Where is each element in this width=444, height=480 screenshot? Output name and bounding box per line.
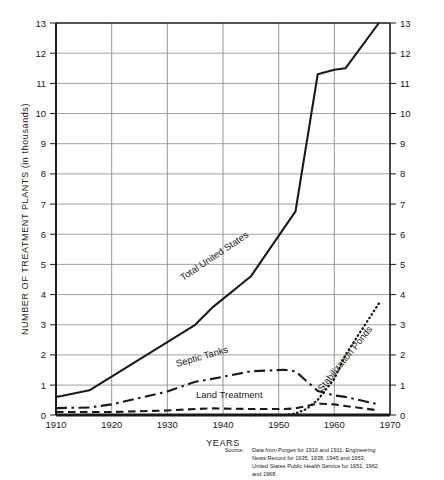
y-tick-right-3: 3 — [400, 319, 405, 330]
y-tick-left-8: 8 — [41, 168, 46, 179]
y-tick-left-10: 10 — [35, 108, 46, 119]
y-tick-left-3: 3 — [41, 319, 46, 330]
y-tick-right-1: 1 — [400, 380, 405, 391]
x-tick-1930: 1930 — [157, 419, 178, 430]
y-tick-left-4: 4 — [41, 289, 46, 300]
y-tick-left-7: 7 — [41, 199, 46, 210]
y-axis-right-tick-labels: 13 12 11 10 9 8 7 6 5 4 3 2 1 0 — [400, 18, 411, 421]
right-tick-marks — [390, 23, 396, 415]
y-tick-right-0: 0 — [400, 410, 405, 421]
y-tick-left-1: 1 — [41, 380, 46, 391]
x-tick-1920: 1920 — [101, 419, 122, 430]
y-tick-right-11: 11 — [400, 78, 410, 89]
x-tick-1910: 1910 — [45, 419, 66, 430]
source-note-line-4: and 1968. — [252, 471, 277, 477]
line-chart: 13 12 11 10 9 8 7 6 5 4 3 2 1 0 13 12 11… — [0, 0, 444, 480]
y-tick-left-2: 2 — [41, 349, 46, 360]
y-tick-right-13: 13 — [400, 18, 411, 29]
y-tick-right-9: 9 — [400, 138, 405, 149]
y-tick-left-12: 12 — [35, 48, 46, 59]
y-tick-right-7: 7 — [400, 199, 405, 210]
y-axis-left-tick-labels: 13 12 11 10 9 8 7 6 5 4 3 2 1 0 — [35, 18, 46, 421]
x-tick-1960: 1960 — [324, 419, 345, 430]
y-tick-right-8: 8 — [400, 168, 405, 179]
y-tick-left-11: 11 — [36, 78, 46, 89]
x-tick-1940: 1940 — [212, 419, 233, 430]
y-tick-left-6: 6 — [41, 229, 46, 240]
y-tick-left-5: 5 — [41, 259, 46, 270]
y-tick-left-13: 13 — [35, 18, 46, 29]
source-note-label: Source: — [225, 447, 245, 453]
y-tick-right-10: 10 — [400, 108, 411, 119]
source-note: Source: Data from Porges for 1910 and 19… — [225, 447, 380, 477]
series-label-land-treatment: Land Treatment — [196, 389, 263, 400]
source-note-line-3: United States Public Health Service for … — [252, 463, 380, 469]
y-axis-title: NUMBER OF TREATMENT PLANTS (in thousands… — [20, 103, 30, 335]
y-tick-right-4: 4 — [400, 289, 405, 300]
source-note-line-1: Data from Porges for 1910 and 1911; Engi… — [252, 447, 375, 453]
y-tick-right-2: 2 — [400, 349, 405, 360]
y-tick-right-5: 5 — [400, 259, 405, 270]
y-tick-right-6: 6 — [400, 229, 405, 240]
y-tick-right-12: 12 — [400, 48, 411, 59]
x-tick-1970: 1970 — [379, 419, 400, 430]
source-note-line-2: News Record for 1935, 1938, 1945 and 195… — [252, 455, 366, 461]
y-tick-left-9: 9 — [41, 138, 46, 149]
chart-figure: 13 12 11 10 9 8 7 6 5 4 3 2 1 0 13 12 11… — [0, 0, 444, 480]
x-tick-1950: 1950 — [268, 419, 289, 430]
x-axis-tick-labels: 1910 1920 1930 1940 1950 1960 1970 — [45, 419, 400, 430]
